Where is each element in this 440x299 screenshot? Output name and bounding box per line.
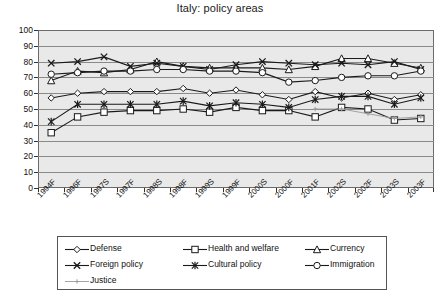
data-point-diamond (101, 88, 107, 94)
y-axis-tick-label: 20 (24, 152, 33, 161)
data-point-circle (101, 68, 107, 74)
series-layer (38, 30, 434, 188)
legend-label: Cultural policy (208, 260, 261, 269)
data-point-diamond (180, 85, 186, 91)
data-point-diamond (286, 96, 292, 102)
cross-marker-icon (64, 258, 90, 271)
y-axis-tick-label: 0 (28, 184, 33, 193)
data-point-diamond (259, 92, 265, 98)
data-point-circle (418, 68, 424, 74)
legend-label: Currency (330, 244, 364, 253)
legend-label: Justice (90, 276, 116, 285)
data-point-circle (206, 68, 212, 74)
data-point-circle (259, 69, 265, 75)
data-point-diamond (233, 87, 239, 93)
data-point-circle (314, 262, 320, 268)
data-point-diamond (154, 88, 160, 94)
data-point-square (259, 107, 265, 113)
data-point-square (206, 109, 212, 115)
data-point-circle (154, 66, 160, 72)
square-marker-icon (182, 242, 208, 255)
triangle-marker-icon (304, 242, 330, 255)
y-axis-tick-label: 40 (24, 121, 33, 130)
data-point-asterisk (48, 118, 54, 126)
legend-item-foreign-policy[interactable]: Foreign policy (64, 258, 182, 271)
data-point-circle (127, 68, 133, 74)
y-axis-tick-label: 30 (24, 137, 33, 146)
chart-title: Italy: policy areas (0, 2, 440, 14)
data-point-circle (312, 77, 318, 83)
legend-item-cultural-policy[interactable]: Cultural policy (182, 258, 304, 271)
legend-grid: DefenseHealth and welfareCurrencyForeign… (64, 242, 382, 287)
data-point-circle (391, 73, 397, 79)
y-axis-tick-label: 50 (24, 105, 33, 114)
series-health-and-welfare (48, 104, 424, 136)
data-point-circle (338, 74, 344, 80)
x-axis: 1994F1996F1997S1997F1998S1998F1999S1999F… (38, 188, 434, 234)
legend-label: Immigration (330, 260, 374, 269)
data-point-circle (48, 71, 54, 77)
y-axis-tick-label: 10 (24, 168, 33, 177)
data-point-diamond (206, 90, 212, 96)
data-point-triangle (48, 77, 55, 84)
data-point-square (180, 106, 186, 112)
asterisk-marker-icon (182, 258, 208, 271)
data-point-square (127, 107, 133, 113)
legend-label: Defense (90, 244, 122, 253)
data-point-square (365, 106, 371, 112)
data-point-circle (286, 79, 292, 85)
data-point-plus (75, 279, 79, 283)
legend-item-currency[interactable]: Currency (304, 242, 382, 255)
data-point-circle (74, 69, 80, 75)
legend-label: Foreign policy (90, 260, 143, 269)
data-point-plus (313, 107, 317, 111)
data-point-diamond (312, 88, 318, 94)
diamond-marker-icon (64, 242, 90, 255)
legend-item-health-and-welfare[interactable]: Health and welfare (182, 242, 304, 255)
data-point-square (192, 246, 198, 252)
legend-item-defense[interactable]: Defense (64, 242, 182, 255)
y-axis-tick-label: 60 (24, 89, 33, 98)
y-axis-tick-label: 80 (24, 58, 33, 67)
chart-legend: DefenseHealth and welfareCurrencyForeign… (57, 236, 387, 290)
legend-item-justice[interactable]: Justice (64, 274, 182, 287)
y-axis: 0102030405060708090100 (0, 30, 38, 188)
data-point-square (74, 114, 80, 120)
data-point-square (48, 130, 54, 136)
circle-marker-icon (304, 258, 330, 271)
legend-item-immigration[interactable]: Immigration (304, 258, 382, 271)
data-point-diamond (74, 90, 80, 96)
data-point-square (312, 114, 318, 120)
legend-label: Health and welfare (208, 244, 279, 253)
data-point-diamond (127, 88, 133, 94)
data-point-circle (233, 68, 239, 74)
x-axis-tick-mark (433, 188, 434, 192)
plus-marker-icon (64, 274, 90, 287)
y-axis-tick-label: 100 (19, 26, 33, 35)
data-point-circle (180, 66, 186, 72)
data-point-diamond (74, 246, 80, 252)
data-point-diamond (48, 95, 54, 101)
y-axis-tick-label: 70 (24, 73, 33, 82)
y-axis-tick-label: 90 (24, 42, 33, 51)
plot-area (38, 30, 434, 188)
data-point-circle (365, 73, 371, 79)
data-point-square (101, 109, 107, 115)
chart-container: Italy: policy areas 01020304050607080901… (0, 0, 440, 299)
data-point-square (154, 107, 160, 113)
